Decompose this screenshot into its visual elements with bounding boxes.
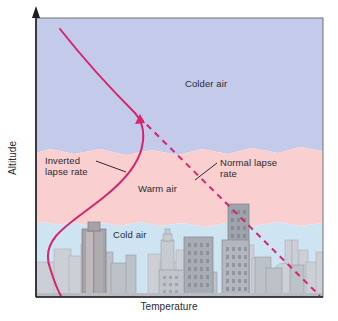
region-label-colder-air: Colder air	[185, 78, 227, 89]
building-low-center	[159, 270, 184, 297]
region-label-cold-air: Cold air	[113, 229, 147, 240]
region-label-warm-air: Warm air	[138, 183, 177, 194]
x-axis-label: Temperature	[0, 301, 338, 313]
up-arrow-icon	[32, 6, 40, 18]
temperature-inversion-diagram: Colder air Warm air Cold air Inverted la…	[0, 0, 338, 321]
curve-label-inverted-lapse-rate: Inverted lapse rate	[45, 155, 88, 177]
tower-left	[82, 222, 106, 297]
curve-label-normal-lapse-rate: Normal lapse rate	[220, 157, 277, 179]
tower-center-block	[184, 237, 213, 297]
tower-front-right	[222, 240, 249, 297]
y-axis-label: Altitude	[7, 123, 19, 193]
layer-colder-air	[36, 18, 323, 155]
